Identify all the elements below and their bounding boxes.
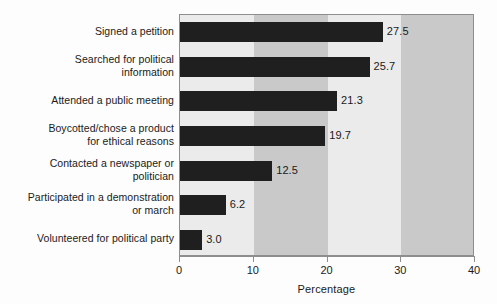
category-row: Contacted a newspaper or politician [0, 152, 174, 187]
category-row: Volunteered for political party [0, 221, 174, 256]
x-axis-tick [179, 256, 180, 262]
bar[interactable] [180, 230, 202, 250]
x-axis-tick-label: 40 [468, 264, 480, 276]
x-axis-tick-label: 0 [176, 264, 182, 276]
bar-chart-figure: 27.525.721.319.712.56.23.0 Signed a peti… [0, 0, 497, 304]
category-row: Boycotted/chose a product for ethical re… [0, 118, 174, 153]
x-axis-tick-label: 30 [394, 264, 406, 276]
x-axis-tick [474, 256, 475, 262]
bar-row [180, 119, 473, 154]
bar[interactable] [180, 91, 337, 111]
category-label: Searched for political information [75, 53, 174, 79]
bar-row [180, 50, 473, 85]
category-label: Volunteered for political party [37, 232, 174, 245]
category-label: Contacted a newspaper or politician [50, 157, 174, 183]
category-row: Attended a public meeting [0, 83, 174, 118]
category-label: Attended a public meeting [51, 94, 174, 107]
category-label: Participated in a demonstration or march [28, 191, 174, 217]
category-label: Boycotted/chose a product for ethical re… [48, 122, 174, 148]
x-axis-tick [400, 256, 401, 262]
bar[interactable] [180, 22, 383, 42]
bar-row [180, 188, 473, 223]
category-label: Signed a petition [95, 25, 174, 38]
bar[interactable] [180, 57, 370, 77]
plot-area [179, 14, 474, 256]
bars-layer [180, 15, 473, 255]
category-row: Participated in a demonstration or march [0, 187, 174, 222]
category-labels-layer: Signed a petitionSearched for political … [0, 14, 174, 256]
bar-row [180, 222, 473, 256]
x-axis-title: Percentage [179, 283, 474, 295]
bar-row [180, 153, 473, 188]
category-row: Signed a petition [0, 14, 174, 49]
bar[interactable] [180, 161, 272, 181]
x-axis-tick-label: 20 [320, 264, 332, 276]
x-axis-tick [327, 256, 328, 262]
bar[interactable] [180, 126, 325, 146]
category-row: Searched for political information [0, 49, 174, 84]
bar-row [180, 15, 473, 50]
bar-row [180, 84, 473, 119]
bar[interactable] [180, 195, 226, 215]
x-axis-tick [253, 256, 254, 262]
x-axis-tick-label: 10 [247, 264, 259, 276]
